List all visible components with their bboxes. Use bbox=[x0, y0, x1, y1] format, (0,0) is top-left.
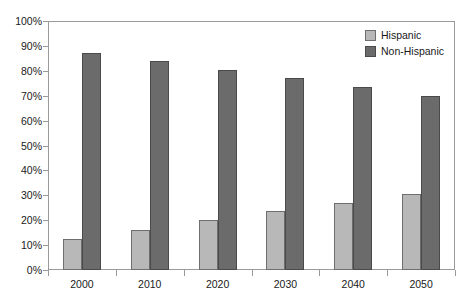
y-axis-tick-label: 40% bbox=[0, 165, 42, 176]
bar-hispanic-2050 bbox=[402, 194, 421, 270]
y-axis-tick-label: 80% bbox=[0, 66, 42, 77]
bar-non-hispanic-2020 bbox=[218, 70, 237, 270]
legend-item-non-hispanic: Non-Hispanic bbox=[365, 43, 453, 59]
x-axis-tick-label: 2050 bbox=[391, 279, 451, 290]
y-axis-tick-label: 70% bbox=[0, 91, 42, 102]
y-axis-tick-label: 20% bbox=[0, 215, 42, 226]
y-axis-tick-mark bbox=[43, 46, 48, 47]
y-axis-tick-label: 50% bbox=[0, 141, 42, 152]
y-axis-tick-label: 90% bbox=[0, 41, 42, 52]
x-axis-tick-mark bbox=[48, 270, 49, 276]
y-axis-tick-label: 30% bbox=[0, 190, 42, 201]
y-axis-tick-label: 60% bbox=[0, 116, 42, 127]
light-gray-swatch-icon bbox=[365, 30, 376, 41]
bar-non-hispanic-2050 bbox=[421, 96, 440, 270]
x-axis-tick-mark bbox=[116, 270, 117, 276]
legend-item-hispanic: Hispanic bbox=[365, 27, 453, 43]
bar-non-hispanic-2000 bbox=[82, 53, 101, 270]
dark-gray-swatch-icon bbox=[365, 46, 376, 57]
x-axis-tick-label: 2000 bbox=[52, 279, 112, 290]
bar-non-hispanic-2030 bbox=[285, 78, 304, 270]
y-axis-tick-mark bbox=[43, 121, 48, 122]
y-axis-tick-label: 100% bbox=[0, 16, 42, 27]
bar-chart: 0%10%20%30%40%50%60%70%80%90%100% 200020… bbox=[0, 0, 464, 298]
x-axis-tick-label: 2020 bbox=[188, 279, 248, 290]
y-axis-tick-mark bbox=[43, 245, 48, 246]
x-axis-tick-mark bbox=[455, 270, 456, 276]
x-axis-tick-label: 2040 bbox=[323, 279, 383, 290]
y-axis-tick-mark bbox=[43, 220, 48, 221]
x-axis-tick-mark bbox=[184, 270, 185, 276]
y-axis-tick-mark bbox=[43, 170, 48, 171]
y-axis-tick-mark bbox=[43, 96, 48, 97]
y-axis-tick-mark bbox=[43, 21, 48, 22]
bar-hispanic-2030 bbox=[266, 211, 285, 270]
x-axis-tick-mark bbox=[387, 270, 388, 276]
bar-hispanic-2000 bbox=[63, 239, 82, 270]
legend-label: Hispanic bbox=[381, 30, 421, 41]
y-axis-tick-label: 0% bbox=[0, 265, 42, 276]
bar-hispanic-2020 bbox=[199, 220, 218, 270]
y-axis-tick-mark bbox=[43, 146, 48, 147]
x-axis-tick-label: 2010 bbox=[120, 279, 180, 290]
x-axis-tick-label: 2030 bbox=[255, 279, 315, 290]
y-axis-tick-mark bbox=[43, 71, 48, 72]
x-axis-tick-mark bbox=[319, 270, 320, 276]
chart-legend: Hispanic Non-Hispanic bbox=[365, 27, 453, 59]
y-axis-tick-label: 10% bbox=[0, 240, 42, 251]
x-axis-tick-mark bbox=[252, 270, 253, 276]
bar-non-hispanic-2010 bbox=[150, 61, 169, 270]
legend-label: Non-Hispanic bbox=[381, 46, 444, 57]
y-axis-tick-mark bbox=[43, 195, 48, 196]
bar-hispanic-2010 bbox=[131, 230, 150, 270]
bar-hispanic-2040 bbox=[334, 203, 353, 270]
bar-non-hispanic-2040 bbox=[353, 87, 372, 270]
